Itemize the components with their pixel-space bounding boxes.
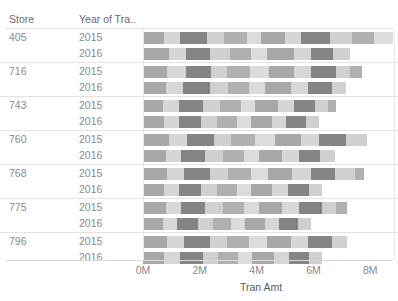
bar-segment[interactable]: [333, 48, 350, 60]
bar-segment[interactable]: [298, 218, 311, 230]
bar-segment[interactable]: [143, 32, 164, 44]
bar-segment[interactable]: [186, 48, 210, 60]
bar-segment[interactable]: [143, 236, 167, 248]
bar-segment[interactable]: [269, 66, 293, 78]
bar-segment[interactable]: [286, 116, 306, 128]
bar-segment[interactable]: [320, 150, 334, 162]
stacked-bar[interactable]: [143, 66, 362, 78]
bar-segment[interactable]: [143, 202, 166, 214]
bar-segment[interactable]: [227, 66, 250, 78]
bar-segment[interactable]: [294, 100, 315, 112]
bar-segment[interactable]: [181, 150, 205, 162]
bar-segment[interactable]: [224, 32, 247, 44]
bar-segment[interactable]: [167, 236, 184, 248]
bar-segment[interactable]: [205, 150, 222, 162]
bar-segment[interactable]: [294, 66, 311, 78]
bar-segment[interactable]: [183, 82, 210, 94]
bar-segment[interactable]: [143, 150, 166, 162]
bar-segment[interactable]: [163, 100, 179, 112]
bar-segment[interactable]: [261, 32, 285, 44]
bar-segment[interactable]: [164, 252, 180, 264]
bar-segment[interactable]: [167, 66, 185, 78]
bar-segment[interactable]: [355, 168, 365, 180]
bar-segment[interactable]: [213, 218, 231, 230]
bar-segment[interactable]: [231, 218, 245, 230]
bar-segment[interactable]: [166, 202, 182, 214]
bar-segment[interactable]: [143, 82, 166, 94]
year-row[interactable]: 2015: [0, 64, 398, 80]
bar-segment[interactable]: [237, 184, 251, 196]
bar-segment[interactable]: [143, 134, 169, 146]
bar-segment[interactable]: [143, 66, 167, 78]
bar-segment[interactable]: [214, 134, 231, 146]
bar-segment[interactable]: [275, 134, 301, 146]
bar-segment[interactable]: [265, 218, 279, 230]
bar-segment[interactable]: [143, 252, 164, 264]
stacked-bar[interactable]: [143, 100, 336, 112]
bar-segment[interactable]: [179, 184, 202, 196]
stacked-bar[interactable]: [143, 168, 364, 180]
bar-segment[interactable]: [255, 134, 275, 146]
bar-segment[interactable]: [268, 168, 292, 180]
stacked-bar[interactable]: [143, 82, 346, 94]
bar-segment[interactable]: [247, 32, 261, 44]
bar-segment[interactable]: [319, 134, 346, 146]
bar-segment[interactable]: [184, 236, 210, 248]
stacked-bar[interactable]: [143, 150, 335, 162]
bar-segment[interactable]: [311, 168, 335, 180]
bar-segment[interactable]: [237, 116, 251, 128]
bar-segment[interactable]: [143, 168, 167, 180]
bar-segment[interactable]: [143, 100, 163, 112]
bar-segment[interactable]: [255, 100, 278, 112]
bar-segment[interactable]: [220, 100, 241, 112]
bar-segment[interactable]: [201, 116, 217, 128]
bar-segment[interactable]: [244, 202, 260, 214]
bar-segment[interactable]: [274, 252, 290, 264]
stacked-bar[interactable]: [143, 252, 322, 264]
bar-segment[interactable]: [311, 66, 337, 78]
bar-segment[interactable]: [218, 252, 238, 264]
bar-segment[interactable]: [201, 184, 217, 196]
year-row[interactable]: 2016: [0, 114, 398, 130]
bar-segment[interactable]: [187, 134, 214, 146]
bar-segment[interactable]: [238, 252, 252, 264]
bar-segment[interactable]: [143, 116, 164, 128]
bar-segment[interactable]: [241, 100, 255, 112]
bar-segment[interactable]: [211, 66, 227, 78]
bar-segment[interactable]: [282, 202, 299, 214]
bar-segment[interactable]: [167, 168, 184, 180]
bar-segment[interactable]: [315, 100, 328, 112]
year-row[interactable]: 2016: [0, 148, 398, 164]
bar-segment[interactable]: [205, 202, 222, 214]
bar-segment[interactable]: [249, 82, 265, 94]
bar-segment[interactable]: [259, 202, 282, 214]
year-row[interactable]: 2016: [0, 46, 398, 62]
bar-segment[interactable]: [292, 168, 310, 180]
bar-segment[interactable]: [230, 48, 251, 60]
bar-segment[interactable]: [143, 48, 169, 60]
bar-segment[interactable]: [249, 236, 266, 248]
bar-segment[interactable]: [308, 236, 332, 248]
year-row[interactable]: 2015: [0, 234, 398, 250]
bar-segment[interactable]: [332, 82, 346, 94]
year-row[interactable]: 2015: [0, 30, 398, 46]
bar-segment[interactable]: [198, 218, 212, 230]
bar-segment[interactable]: [250, 66, 270, 78]
bar-segment[interactable]: [336, 66, 350, 78]
stacked-bar[interactable]: [143, 218, 311, 230]
bar-segment[interactable]: [267, 236, 291, 248]
bar-segment[interactable]: [346, 134, 367, 146]
bar-segment[interactable]: [244, 150, 260, 162]
bar-segment[interactable]: [228, 168, 251, 180]
bar-segment[interactable]: [335, 168, 355, 180]
bar-segment[interactable]: [166, 150, 182, 162]
stacked-bar[interactable]: [143, 134, 367, 146]
bar-segment[interactable]: [223, 150, 244, 162]
bar-segment[interactable]: [291, 236, 308, 248]
bar-segment[interactable]: [143, 184, 164, 196]
stacked-bar[interactable]: [143, 202, 347, 214]
bar-segment[interactable]: [203, 100, 220, 112]
bar-segment[interactable]: [179, 116, 202, 128]
bar-segment[interactable]: [251, 48, 267, 60]
bar-segment[interactable]: [279, 218, 297, 230]
